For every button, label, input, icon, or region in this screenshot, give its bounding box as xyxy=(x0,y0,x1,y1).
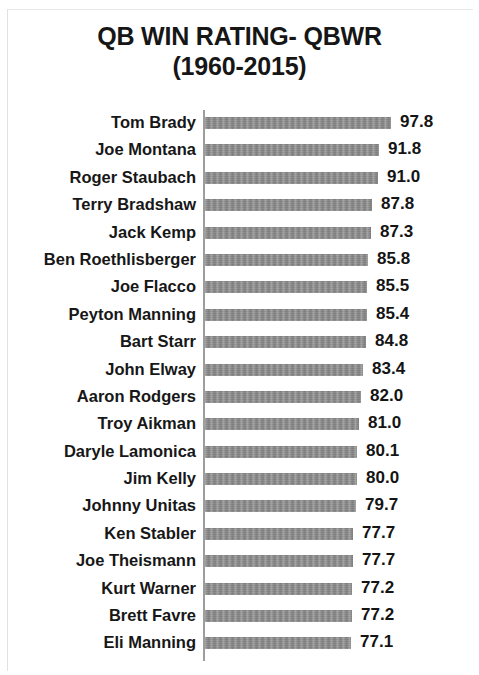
bar-track xyxy=(205,227,371,239)
bar-value-label: 97.8 xyxy=(400,111,433,132)
bar-row: Jim Kelly80.0 xyxy=(0,466,479,493)
bar-category-label: Roger Staubach xyxy=(6,167,196,187)
bar xyxy=(205,555,353,567)
bar-category-label: Kurt Warner xyxy=(6,578,196,598)
bar-value-label: 91.8 xyxy=(388,138,421,159)
bar-value-label: 80.0 xyxy=(366,467,399,488)
bar-row: Eli Manning77.1 xyxy=(0,630,479,657)
bar-track xyxy=(205,446,357,458)
bar-track xyxy=(205,583,352,595)
bar xyxy=(205,637,351,649)
bar-track xyxy=(205,144,379,156)
bar-track xyxy=(205,281,367,293)
bar-category-label: Ben Roethlisberger xyxy=(6,249,196,269)
bar-track xyxy=(205,528,353,540)
bar-value-label: 77.7 xyxy=(362,549,395,570)
bar xyxy=(205,446,357,458)
bar-row: Ken Stabler77.7 xyxy=(0,521,479,548)
bar xyxy=(205,199,372,211)
bar-category-label: Joe Montana xyxy=(6,139,196,159)
bar-row: Peyton Manning85.4 xyxy=(0,302,479,329)
bar xyxy=(205,254,368,266)
bar-category-label: Troy Aikman xyxy=(6,413,196,433)
bar-value-label: 81.0 xyxy=(368,412,401,433)
bar xyxy=(205,309,367,321)
bar-row: Bart Starr84.8 xyxy=(0,329,479,356)
chart-page: QB WIN RATING- QBWR (1960-2015) Tom Brad… xyxy=(0,0,479,675)
bar xyxy=(205,500,356,512)
bar xyxy=(205,583,352,595)
bar xyxy=(205,227,371,239)
bar-row: Daryle Lamonica80.1 xyxy=(0,439,479,466)
bar-category-label: Johnny Unitas xyxy=(6,495,196,515)
bar-category-label: Bart Starr xyxy=(6,331,196,351)
bar-track xyxy=(205,610,352,622)
bar-row: John Elway83.4 xyxy=(0,357,479,384)
bar-value-label: 85.8 xyxy=(377,248,410,269)
bar-row: Kurt Warner77.2 xyxy=(0,576,479,603)
bar-value-label: 87.8 xyxy=(381,193,414,214)
bar-row: Terry Bradshaw87.8 xyxy=(0,192,479,219)
bar-category-label: Daryle Lamonica xyxy=(6,441,196,461)
bar-track xyxy=(205,309,367,321)
bar-track xyxy=(205,199,372,211)
bar-row: Joe Montana91.8 xyxy=(0,137,479,164)
bar-row: Ben Roethlisberger85.8 xyxy=(0,247,479,274)
bar-chart-plot-area: Tom Brady97.8Joe Montana91.8Roger Stauba… xyxy=(0,110,479,658)
bar xyxy=(205,610,352,622)
bar-category-label: Terry Bradshaw xyxy=(6,194,196,214)
chart-title-line-1: QB WIN RATING- QBWR xyxy=(97,22,382,50)
bar-track xyxy=(205,473,357,485)
bar-category-label: John Elway xyxy=(6,359,196,379)
bar xyxy=(205,117,391,129)
bar-value-label: 87.3 xyxy=(380,221,413,242)
bar xyxy=(205,144,379,156)
bar-row: Johnny Unitas79.7 xyxy=(0,493,479,520)
bar xyxy=(205,473,357,485)
bar xyxy=(205,364,363,376)
bar-value-label: 77.1 xyxy=(360,631,393,652)
bar-track xyxy=(205,500,356,512)
bar-value-label: 82.0 xyxy=(370,385,403,406)
bar xyxy=(205,336,366,348)
bar-row: Joe Flacco85.5 xyxy=(0,274,479,301)
bar-track xyxy=(205,364,363,376)
bar-row: Aaron Rodgers82.0 xyxy=(0,384,479,411)
bar xyxy=(205,172,378,184)
bar-category-label: Ken Stabler xyxy=(6,523,196,543)
bar-row: Troy Aikman81.0 xyxy=(0,411,479,438)
bar-track xyxy=(205,117,391,129)
bar-value-label: 83.4 xyxy=(372,358,405,379)
bar xyxy=(205,528,353,540)
bar-category-label: Jack Kemp xyxy=(6,222,196,242)
bar-value-label: 91.0 xyxy=(387,166,420,187)
bar-track xyxy=(205,336,366,348)
bar-row: Tom Brady97.8 xyxy=(0,110,479,137)
bar-category-label: Peyton Manning xyxy=(6,304,196,324)
bar-category-label: Joe Flacco xyxy=(6,276,196,296)
bar-track xyxy=(205,418,359,430)
bar-value-label: 85.4 xyxy=(376,303,409,324)
bar-track xyxy=(205,254,368,266)
bar-category-label: Brett Favre xyxy=(6,605,196,625)
bar-value-label: 80.1 xyxy=(366,440,399,461)
bar-category-label: Jim Kelly xyxy=(6,468,196,488)
bar-category-label: Aaron Rodgers xyxy=(6,386,196,406)
bar-row-list: Tom Brady97.8Joe Montana91.8Roger Stauba… xyxy=(0,110,479,658)
bar-value-label: 85.5 xyxy=(376,275,409,296)
chart-title: QB WIN RATING- QBWR (1960-2015) xyxy=(0,21,479,81)
bar-row: Roger Staubach91.0 xyxy=(0,165,479,192)
bar-category-label: Tom Brady xyxy=(6,112,196,132)
bar-track xyxy=(205,555,353,567)
bar-value-label: 84.8 xyxy=(375,330,408,351)
bar xyxy=(205,391,361,403)
bar xyxy=(205,418,359,430)
bar-row: Jack Kemp87.3 xyxy=(0,220,479,247)
bar xyxy=(205,281,367,293)
bar-row: Brett Favre77.2 xyxy=(0,603,479,630)
bar-row: Joe Theismann77.7 xyxy=(0,548,479,575)
bar-track xyxy=(205,391,361,403)
bar-value-label: 77.7 xyxy=(362,522,395,543)
bar-track xyxy=(205,172,378,184)
bar-value-label: 79.7 xyxy=(365,494,398,515)
